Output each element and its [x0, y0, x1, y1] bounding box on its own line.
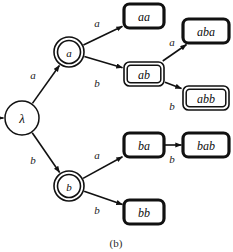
edge-label-a-ab: b	[94, 77, 100, 89]
node-label-root: λ	[18, 111, 25, 126]
node-label-bb: bb	[138, 206, 150, 220]
node-label-aa: aa	[138, 10, 150, 24]
edge-label-a-aa: a	[94, 17, 100, 29]
edge-ab-abb	[165, 82, 182, 88]
figure-container: λabaaababaabbbababbb ababababb (b)	[0, 0, 233, 252]
automaton-diagram: λabaaababaabbbababbb ababababb (b)	[0, 0, 233, 252]
edge-b-bb	[84, 191, 122, 204]
node-label-aba: aba	[197, 25, 215, 39]
edge-label-b-ba: a	[94, 149, 100, 161]
node-aa[interactable]: aa	[124, 4, 164, 28]
edge-label-b-bb: b	[94, 204, 100, 216]
edge-a-aa	[83, 26, 122, 45]
node-label-ba: ba	[138, 139, 150, 153]
node-b[interactable]: b	[54, 171, 84, 201]
node-ba[interactable]: ba	[124, 133, 164, 157]
node-a[interactable]: a	[54, 37, 84, 67]
node-label-b: b	[66, 181, 72, 193]
edge-label-ab-aba: a	[169, 36, 175, 48]
edge-root-b	[32, 133, 59, 173]
node-root[interactable]: λ	[5, 101, 39, 135]
edge-label-root-a: a	[30, 69, 36, 81]
node-label-a: a	[66, 47, 72, 59]
node-abb[interactable]: abb	[183, 86, 229, 110]
edge-root-a	[32, 65, 59, 103]
edge-b-ba	[83, 157, 122, 179]
edge-labels-layer: ababababb	[30, 17, 175, 216]
edge-label-root-b: b	[30, 154, 36, 166]
node-ab[interactable]: ab	[124, 62, 164, 86]
node-label-bab: bab	[197, 139, 215, 153]
edge-a-ab	[84, 57, 122, 68]
figure-caption: (b)	[110, 237, 123, 250]
node-bab[interactable]: bab	[183, 133, 229, 157]
node-label-ab: ab	[138, 68, 150, 82]
node-bb[interactable]: bb	[124, 200, 164, 224]
nodes-layer: λabaaababaabbbababbb	[5, 4, 229, 224]
node-aba[interactable]: aba	[183, 19, 229, 43]
edge-label-ab-abb: b	[169, 100, 175, 112]
edge-label-ba-bab: b	[169, 153, 175, 165]
node-label-abb: abb	[197, 92, 215, 106]
